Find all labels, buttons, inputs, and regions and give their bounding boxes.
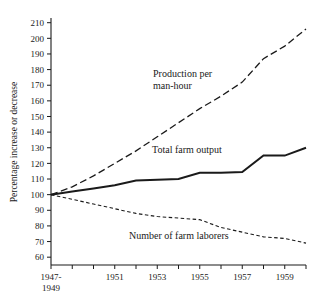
y-axis-ticks <box>47 23 51 257</box>
y-tick-label-70: 70 <box>35 237 45 247</box>
y-tick-label-130: 130 <box>31 143 45 153</box>
y-tick-label-80: 80 <box>35 221 45 231</box>
x-tick-label-1957: 1957 <box>233 272 252 282</box>
y-tick-label-140: 140 <box>31 127 45 137</box>
annotation-total-farm-output: Total farm output <box>152 144 222 155</box>
y-tick-label-90: 90 <box>35 205 45 215</box>
x-axis-ticks <box>51 265 306 269</box>
y-tick-label-150: 150 <box>31 112 45 122</box>
y-tick-label-170: 170 <box>31 80 45 90</box>
chart-canvas: 6070809010011012013014015016017018019020… <box>0 0 312 298</box>
annotation-production-per-man-hour-line1: Production per <box>153 68 213 79</box>
y-tick-label-200: 200 <box>31 34 45 44</box>
y-tick-label-110: 110 <box>31 174 45 184</box>
x-tick-label-1959: 1959 <box>276 272 295 282</box>
x-tick-label-1953: 1953 <box>148 272 167 282</box>
y-tick-label-190: 190 <box>31 49 45 59</box>
series-line-production-per-man-hour <box>51 29 306 195</box>
y-tick-label-100: 100 <box>31 190 45 200</box>
x-tick-label-1951: 1951 <box>106 272 124 282</box>
annotation-production-per-man-hour-line2: man-hour <box>153 80 193 91</box>
annotation-number-of-farm-laborers: Number of farm laborers <box>129 230 229 241</box>
x-tick-label-1948-line2: 1949 <box>42 283 61 293</box>
y-tick-label-160: 160 <box>31 96 45 106</box>
y-axis-title: Percentage increase or decrease <box>9 82 19 203</box>
y-axis-tick-labels: 6070809010011012013014015016017018019020… <box>31 18 45 262</box>
x-axis-tick-labels: 1947-194919511953195519571959 <box>41 272 295 293</box>
x-tick-label-1948: 1947- <box>41 272 62 282</box>
farm-productivity-chart: 6070809010011012013014015016017018019020… <box>0 0 312 298</box>
y-tick-label-60: 60 <box>35 252 45 262</box>
y-tick-label-120: 120 <box>31 159 45 169</box>
y-tick-label-180: 180 <box>31 65 45 75</box>
x-tick-label-1955: 1955 <box>191 272 210 282</box>
y-tick-label-210: 210 <box>31 18 45 28</box>
